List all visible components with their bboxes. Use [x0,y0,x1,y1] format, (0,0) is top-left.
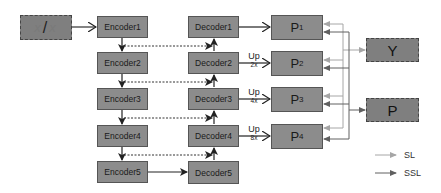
up-scale: 4x [245,97,263,105]
output-p-box: P [366,98,419,122]
upsample-label-4x: Up 4x [245,88,263,105]
encoder-label: Encoder2 [104,58,140,68]
encoder-5: Encoder5 [97,161,148,183]
p-letter: P [290,92,299,107]
legend-sl-label: SL [404,150,415,160]
prediction-p3: P3 [271,87,323,112]
decoder-1: Decoder1 [188,16,239,38]
p-index: 1 [299,23,303,32]
input-right-symbol: x [49,20,58,35]
decoder-2: Decoder2 [188,52,239,74]
up-scale: 2x [245,61,263,69]
prediction-p2: P2 [271,51,323,76]
legend-ssl-label: SSL [404,168,421,178]
encoder-4: Encoder4 [97,125,148,147]
decoder-4: Decoder4 [188,125,239,147]
encoder-label: Encoder5 [104,167,140,177]
up-text: Up [248,87,260,97]
decoder-label: Decoder2 [195,58,232,68]
p-index: 2 [299,59,303,68]
encoder-3: Encoder3 [97,88,148,110]
decoder-3: Decoder3 [188,88,239,110]
input-left-symbol: x [34,20,43,35]
decoder-label: Decoder4 [195,131,232,141]
output-y-label: Y [387,42,397,59]
p-index: 4 [299,132,303,141]
upsample-label-8x: Up 8x [245,125,263,142]
p-letter: P [290,20,299,35]
p-index: 3 [299,95,303,104]
p-letter: P [290,56,299,71]
upsample-label-2x: Up 2x [245,52,263,69]
decoder-label: Decoder1 [195,22,232,32]
decoder-5: Decoder5 [188,161,239,184]
input-image-box: x / x [20,15,72,40]
output-y-box: Y [366,38,419,62]
prediction-p4: P4 [271,124,323,149]
p-letter: P [290,129,299,144]
up-scale: 8x [245,134,263,142]
encoder-label: Encoder3 [104,94,140,104]
prediction-p1: P1 [271,15,323,40]
output-p-label: P [387,102,397,119]
up-text: Up [248,51,260,61]
encoder-label: Encoder4 [104,131,140,141]
encoder-1: Encoder1 [97,16,148,38]
decoder-label: Decoder5 [195,168,232,178]
encoder-2: Encoder2 [97,52,148,74]
up-text: Up [248,124,260,134]
encoder-label: Encoder1 [104,22,140,32]
decoder-label: Decoder3 [195,94,232,104]
